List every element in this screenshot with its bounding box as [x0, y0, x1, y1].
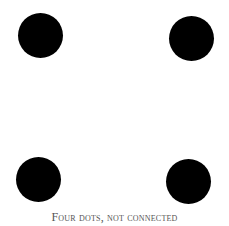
figure-caption: Four dots, not connected: [0, 210, 229, 224]
dot-top-left: [18, 13, 63, 58]
dot-bottom-left: [16, 157, 61, 202]
four-dots-figure: Four dots, not connected: [0, 0, 229, 226]
dot-top-right: [169, 16, 214, 61]
dot-bottom-right: [166, 159, 211, 204]
